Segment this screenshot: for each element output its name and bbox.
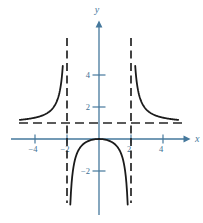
y-axis-label: y: [94, 4, 100, 15]
x-tick-label: 4: [159, 144, 164, 154]
y-tick-label: −2: [81, 166, 90, 176]
y-axis-arrow-icon: [96, 21, 103, 28]
y-tick-label: 4: [86, 70, 91, 80]
asymptote-lines: [19, 38, 184, 203]
left-branch: [20, 66, 63, 120]
x-axis-arrow-icon: [184, 136, 191, 143]
x-tick-label: −2: [60, 144, 69, 154]
function-graph: −4−22442−2 x y: [0, 0, 203, 223]
x-axis-label: x: [194, 133, 200, 144]
x-tick-label: −4: [28, 144, 38, 154]
right-branch: [135, 66, 178, 120]
y-tick-label: 2: [86, 102, 90, 112]
figure: −4−22442−2 x y: [0, 0, 203, 223]
